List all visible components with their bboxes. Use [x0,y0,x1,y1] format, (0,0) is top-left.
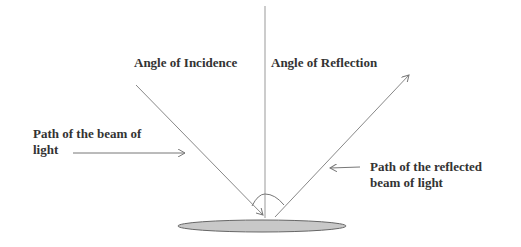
reflected-path-label: Path of the reflected beam of light [370,159,482,191]
reflected-path-label-line1: Path of the reflected [370,159,482,175]
incident-ray [136,85,263,215]
reflection-diagram [0,0,521,247]
angle-arc [252,194,284,206]
incident-path-label-line2: light [33,142,141,158]
angle-of-reflection-label: Angle of Reflection [271,55,377,71]
incident-path-label: Path of the beam of light [33,126,141,158]
reflected-path-label-line2: beam of light [370,175,482,191]
reflected-label-pointer [330,167,360,168]
reflected-ray [275,75,409,217]
incident-path-label-line1: Path of the beam of [33,126,141,142]
mirror [178,220,346,232]
angle-of-incidence-label: Angle of Incidence [134,55,237,71]
